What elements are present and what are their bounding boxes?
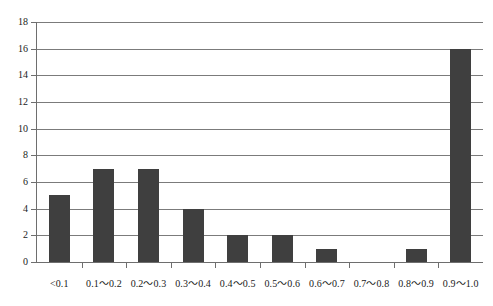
bar-chart: 181614121086420 <0.10.1〜0.20.2〜0.30.3〜0.… — [0, 0, 493, 306]
bar — [93, 169, 114, 262]
gridline — [37, 22, 483, 23]
y-tick-label: 14 — [4, 70, 28, 80]
y-tick-label: 12 — [4, 97, 28, 107]
gridline — [37, 129, 483, 130]
bar — [183, 209, 204, 262]
x-tick-mark — [126, 263, 127, 268]
y-tick-label: 10 — [4, 124, 28, 134]
x-tick-mark — [394, 263, 395, 268]
y-tick-label: 0 — [4, 257, 28, 267]
gridline — [37, 75, 483, 76]
gridline — [37, 102, 483, 103]
bar — [272, 235, 293, 262]
x-tick-mark — [305, 263, 306, 268]
bar — [450, 49, 471, 262]
bar — [138, 169, 159, 262]
x-tick-label: 0.3〜0.4 — [171, 278, 216, 289]
x-tick-label: 0.9〜1.0 — [438, 278, 483, 289]
plot-area — [37, 22, 483, 262]
y-axis-line — [36, 22, 37, 263]
bar — [406, 249, 427, 262]
gridline — [37, 155, 483, 156]
y-tick-label: 6 — [4, 177, 28, 187]
x-tick-label: 0.6〜0.7 — [305, 278, 350, 289]
x-tick-mark — [260, 263, 261, 268]
x-tick-mark — [82, 263, 83, 268]
x-tick-label: 0.2〜0.3 — [126, 278, 171, 289]
x-tick-mark — [349, 263, 350, 268]
x-tick-label: 0.1〜0.2 — [82, 278, 127, 289]
y-tick-label: 4 — [4, 204, 28, 214]
bar — [316, 249, 337, 262]
y-tick-label: 2 — [4, 230, 28, 240]
x-tick-label: 0.5〜0.6 — [260, 278, 305, 289]
y-tick-label: 16 — [4, 44, 28, 54]
x-tick-mark — [171, 263, 172, 268]
y-tick-label: 18 — [4, 17, 28, 27]
bar — [49, 195, 70, 262]
x-tick-label: 0.7〜0.8 — [349, 278, 394, 289]
x-tick-label: 0.4〜0.5 — [215, 278, 260, 289]
y-tick-label: 8 — [4, 150, 28, 160]
gridline — [37, 49, 483, 50]
x-tick-mark — [438, 263, 439, 268]
x-tick-label: <0.1 — [37, 278, 82, 289]
bar — [227, 235, 248, 262]
x-axis-line — [37, 262, 483, 263]
x-tick-label: 0.8〜0.9 — [394, 278, 439, 289]
x-tick-mark — [215, 263, 216, 268]
